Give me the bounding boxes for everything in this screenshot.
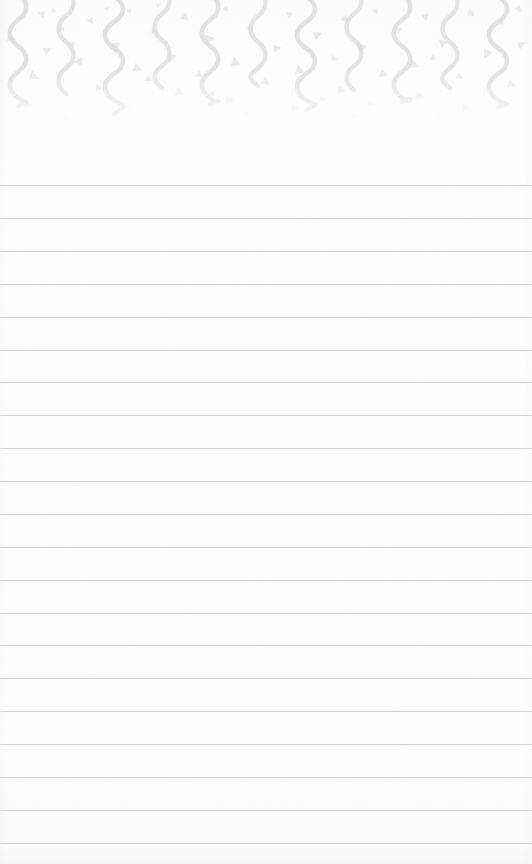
writing-area[interactable] <box>0 170 532 864</box>
notepad-page <box>0 0 532 864</box>
